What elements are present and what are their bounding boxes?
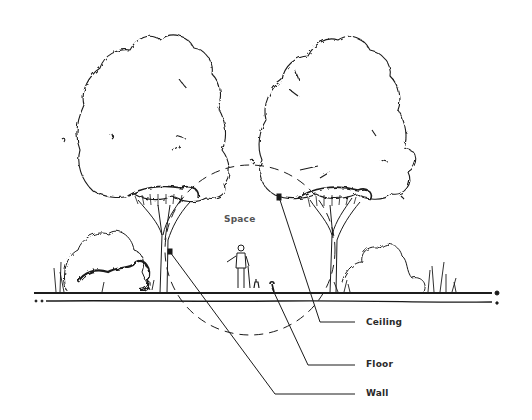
- ceiling-leader: [279, 197, 355, 322]
- left-tree: [62, 35, 229, 293]
- wall-label: Wall: [366, 389, 389, 398]
- space-circle: [165, 165, 335, 335]
- sketch-artwork: [0, 0, 532, 420]
- left-shrubs: [54, 231, 154, 292]
- floor-leader: [272, 288, 355, 365]
- right-shrubs: [334, 244, 456, 292]
- space-label: Space: [224, 215, 255, 224]
- floor-label: Floor: [366, 360, 393, 369]
- right-tree: [250, 36, 416, 293]
- diagram-canvas: Space Ceiling Floor Wall: [0, 0, 532, 420]
- ceiling-label: Ceiling: [366, 318, 402, 327]
- wall-leader: [170, 252, 355, 394]
- human-figure: [227, 245, 274, 292]
- ground-line: [34, 291, 499, 304]
